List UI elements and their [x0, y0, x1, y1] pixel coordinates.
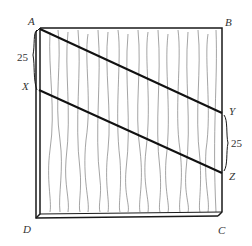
label-vertex-D: D: [23, 224, 31, 235]
label-vertex-B: B: [225, 17, 232, 28]
label-vertex-C: C: [218, 225, 225, 236]
board-diagram: [0, 0, 252, 246]
label-point-Y: Y: [229, 106, 235, 117]
measurement-AX: 25: [17, 52, 28, 63]
measurement-YZ: 25: [231, 138, 242, 149]
label-point-Z: Z: [229, 171, 235, 182]
line-XZ: [39, 90, 222, 173]
brace-YZ: [224, 115, 228, 171]
cut-lines: [39, 29, 222, 173]
label-vertex-A: A: [28, 16, 35, 27]
wood-grain: [49, 30, 217, 212]
label-point-X: X: [22, 81, 29, 92]
board-outline: [36, 28, 222, 218]
